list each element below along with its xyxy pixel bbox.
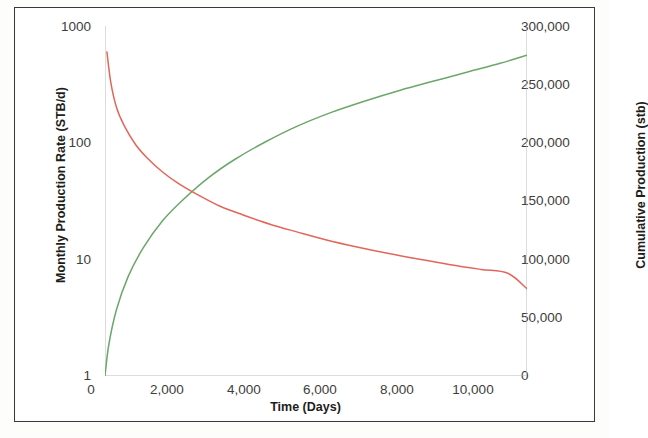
x-axis-tick-label: 2,000	[131, 383, 203, 397]
plot-svg	[105, 26, 527, 376]
x-axis-title: Time (Days)	[15, 400, 596, 414]
x-axis-tick-label: 8,000	[361, 383, 433, 397]
y-axis-tick-label: 1000	[0, 20, 91, 34]
y2-axis-tick-label: 300,000	[521, 20, 611, 34]
x-axis-tick-label: 6,000	[284, 383, 356, 397]
x-axis-tick-label: 4,000	[208, 383, 280, 397]
figure-frame: 1000 100 10 1 300,000 250,000 200,000 15…	[14, 7, 595, 422]
y2-axis-tick-label: 250,000	[521, 78, 611, 92]
y2-axis-tick-label: 50,000	[521, 311, 611, 325]
y2-axis-tick-label: 0	[521, 369, 611, 383]
y-axis-tick-label: 1	[0, 369, 91, 383]
plot-area	[105, 26, 527, 376]
y2-axis-tick-label: 150,000	[521, 194, 611, 208]
x-axis-tick-label: 0	[55, 383, 127, 397]
axis-lines	[105, 26, 527, 376]
y-axis-tick-label: 100	[0, 136, 91, 150]
y2-axis-tick-label: 200,000	[521, 136, 611, 150]
y-axis-tick-label: 10	[0, 253, 91, 267]
y2-axis-title: Cumulative Production (stb)	[634, 75, 648, 295]
x-axis-tick-label: 10,000	[437, 383, 509, 397]
y2-axis-tick-label: 100,000	[521, 253, 611, 267]
y-axis-title: Monthly Production Rate (STB/d)	[54, 75, 68, 295]
cumulative-production-curve	[105, 55, 527, 376]
production-rate-curve	[107, 52, 527, 289]
